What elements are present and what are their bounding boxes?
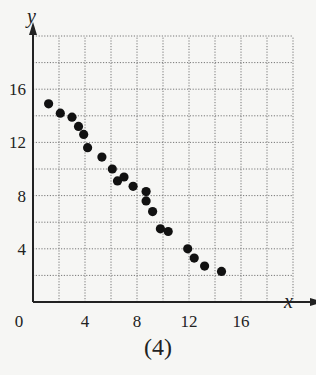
data-points — [44, 99, 226, 276]
y-tick-label: 12 — [9, 133, 26, 152]
data-point — [156, 224, 165, 233]
data-point — [74, 122, 83, 131]
data-point — [142, 196, 151, 205]
data-point — [83, 143, 92, 152]
y-tick-label: 16 — [9, 80, 26, 99]
data-point — [108, 164, 117, 173]
data-point — [217, 267, 226, 276]
data-point — [56, 109, 65, 118]
x-tick-label: 8 — [133, 312, 142, 331]
data-point — [183, 244, 192, 253]
data-point — [200, 261, 209, 270]
tick-labels: 0481216481216 — [9, 80, 250, 331]
data-point — [190, 254, 199, 263]
x-tick-label: 12 — [181, 312, 198, 331]
data-point — [44, 99, 53, 108]
data-point — [148, 207, 157, 216]
figure-caption: (4) — [0, 334, 316, 361]
axes — [29, 22, 316, 306]
data-point — [142, 187, 151, 196]
x-tick-label: 16 — [233, 312, 250, 331]
data-point — [79, 130, 88, 139]
x-axis-label: x — [283, 290, 293, 312]
data-point — [119, 172, 128, 181]
data-point — [97, 152, 106, 161]
x-tick-label: 4 — [81, 312, 90, 331]
y-tick-label: 8 — [18, 187, 27, 206]
x-tick-label: 0 — [15, 312, 24, 331]
grid — [33, 36, 293, 302]
x-axis-arrow-icon — [310, 298, 316, 306]
scatter-chart: 0481216481216 x y — [0, 0, 316, 375]
data-point — [67, 113, 76, 122]
y-tick-label: 4 — [18, 240, 27, 259]
data-point — [164, 227, 173, 236]
y-axis-label: y — [25, 5, 36, 28]
data-point — [129, 182, 138, 191]
